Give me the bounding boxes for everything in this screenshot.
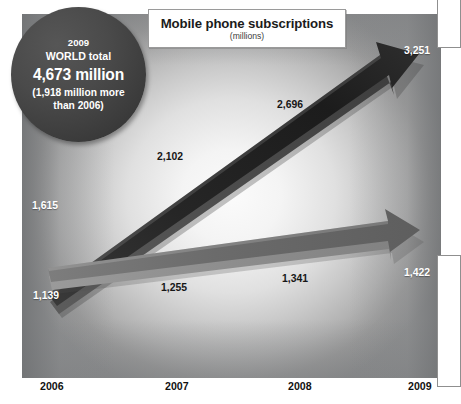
- callout-year: 2009: [68, 37, 89, 48]
- x-axis-tick-2006: 2006: [40, 381, 64, 392]
- upper-value-label-2007: 2,102: [157, 152, 183, 162]
- callout-note: (1,918 million more than 2006): [11, 87, 146, 112]
- callout-world-label: WORLD total: [46, 50, 111, 63]
- chart-title-box: Mobile phone subscriptions (millions): [148, 9, 346, 48]
- world-total-callout: 2009 WORLD total 4,673 million (1,918 mi…: [11, 7, 146, 142]
- edge-callout-box-top: [437, 0, 461, 48]
- chart-subtitle: (millions): [230, 32, 264, 41]
- x-axis: 2006 2007 2008 2009: [22, 381, 441, 401]
- upper-value-label-2009: 3,251: [404, 46, 430, 56]
- upper-value-label-2006: 1,615: [32, 201, 58, 211]
- x-axis-tick-2008: 2008: [288, 381, 312, 392]
- lower-series-arrow: [48, 209, 424, 294]
- upper-value-label-2008: 2,696: [277, 100, 303, 110]
- x-axis-tick-2009: 2009: [408, 381, 432, 392]
- lower-value-label-2006: 1,139: [33, 291, 59, 301]
- callout-total-value: 4,673 million: [33, 66, 124, 84]
- lower-value-label-2008: 1,341: [282, 274, 308, 284]
- chart-title: Mobile phone subscriptions: [161, 17, 334, 30]
- edge-callout-box-bottom: [437, 255, 461, 387]
- lower-value-label-2009: 1,422: [404, 268, 430, 278]
- x-axis-tick-2007: 2007: [165, 381, 189, 392]
- lower-value-label-2007: 1,255: [161, 283, 187, 293]
